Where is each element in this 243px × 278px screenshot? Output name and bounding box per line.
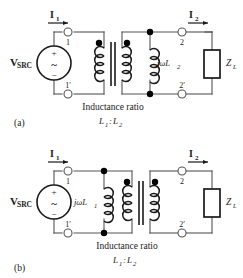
terminal-1p-node-a[interactable] xyxy=(64,90,72,98)
panel-tag-a: (a) xyxy=(14,118,25,129)
current-out-label-b: I xyxy=(189,148,193,159)
load-label-a: Z xyxy=(226,58,232,68)
inductor-label-sub-b: 1 xyxy=(94,202,97,209)
caption-ratio-l2-sub-a: 2 xyxy=(119,121,123,128)
terminal-1-label-b: 1 xyxy=(66,177,70,186)
figure-root: + ~ − V SRC 1 1′ 2 2′ xyxy=(0,0,243,278)
terminal-1-node-b[interactable] xyxy=(64,167,72,175)
current-in-label-sub-a: 1 xyxy=(56,15,60,23)
source-label-sub-b: SRC xyxy=(17,200,32,209)
terminal-1-label-a: 1 xyxy=(66,38,70,47)
panel-tag-b: (b) xyxy=(14,263,25,274)
polarity-dot-primary-b xyxy=(124,179,130,185)
terminal-2-node-a[interactable] xyxy=(178,28,186,36)
source-plus-sign-a: + xyxy=(51,48,56,58)
circuit-svg-b: + ~ − V SRC 1 1′ 2 2′ jωL xyxy=(0,139,243,278)
transformer-primary-coil-a xyxy=(95,47,104,82)
caption-ratio-l2-b: L xyxy=(126,255,132,265)
terminal-1-node-a[interactable] xyxy=(64,28,72,36)
current-in-label-sub-b: 1 xyxy=(56,154,60,162)
wires-a xyxy=(54,32,212,94)
current-out-label-a: I xyxy=(189,9,193,20)
source-label-sub-a: SRC xyxy=(17,61,32,70)
terminal-2-label-a: 2 xyxy=(180,38,184,47)
source-minus-sign-b: − xyxy=(51,209,56,219)
circuit-panel-a: + ~ − V SRC 1 1′ 2 2′ xyxy=(0,0,243,139)
terminal-1p-node-b[interactable] xyxy=(64,229,72,237)
transformer-secondary-coil-b xyxy=(150,186,159,221)
caption-line1-a: Inductance ratio xyxy=(82,102,144,112)
caption-line2-b: L 1 : L 2 xyxy=(112,255,137,267)
transformer-core-a xyxy=(111,42,115,86)
terminal-2p-node-b[interactable] xyxy=(178,229,186,237)
terminal-1p-label-b: 1′ xyxy=(65,220,71,229)
polarity-dot-secondary-b xyxy=(152,179,158,185)
caption-ratio-sep-a: : xyxy=(109,116,112,126)
transformer-primary-coil-b xyxy=(123,186,132,221)
load-label-sub-b: L xyxy=(232,202,237,209)
inductor-label-b: jωL xyxy=(73,197,87,207)
current-in-label-a: I xyxy=(50,9,54,20)
current-out-label-sub-a: 2 xyxy=(195,15,199,23)
inductor-label-sub-a: 2 xyxy=(177,63,181,70)
caption-line1-b: Inductance ratio xyxy=(96,241,158,251)
source-plus-sign-b: + xyxy=(51,187,56,197)
polarity-dot-primary-a xyxy=(96,40,102,46)
junction-dot-top-b xyxy=(101,168,107,174)
source-waveform-b: ~ xyxy=(51,197,57,209)
terminal-2-label-b: 2 xyxy=(180,177,184,186)
terminal-2p-label-b: 2′ xyxy=(179,220,185,229)
load-impedance-box-a xyxy=(204,50,220,78)
inductor-coil-b xyxy=(104,188,113,223)
load-label-sub-a: L xyxy=(232,63,237,70)
inductor-label-a: jωL xyxy=(156,58,170,68)
terminal-2p-node-a[interactable] xyxy=(178,90,186,98)
caption-ratio-l1-b: L xyxy=(112,255,118,265)
terminal-2p-label-a: 2′ xyxy=(179,81,185,90)
circuit-panel-b: + ~ − V SRC 1 1′ 2 2′ jωL xyxy=(0,139,243,278)
junction-dot-bottom-a xyxy=(147,91,153,97)
caption-line2-a: L 1 : L 2 xyxy=(98,116,123,128)
caption-ratio-l2-a: L xyxy=(112,116,118,126)
source-minus-sign-a: − xyxy=(51,70,56,80)
caption-ratio-l2-sub-b: 2 xyxy=(133,260,137,267)
caption-ratio-l1-sub-a: 1 xyxy=(105,121,108,128)
current-in-label-b: I xyxy=(50,148,54,159)
polarity-dot-secondary-a xyxy=(124,40,130,46)
junction-dot-bottom-b xyxy=(101,230,107,236)
caption-ratio-l1-sub-b: 1 xyxy=(119,260,122,267)
terminal-1p-label-a: 1′ xyxy=(65,81,71,90)
caption-ratio-l1-a: L xyxy=(98,116,104,126)
caption-ratio-sep-b: : xyxy=(123,255,126,265)
load-impedance-box-b xyxy=(204,189,220,217)
source-waveform-a: ~ xyxy=(51,58,57,70)
transformer-secondary-coil-a xyxy=(122,47,131,82)
terminal-2-node-b[interactable] xyxy=(178,167,186,175)
load-label-b: Z xyxy=(226,197,232,207)
circuit-svg-a: + ~ − V SRC 1 1′ 2 2′ xyxy=(0,0,243,139)
current-out-label-sub-b: 2 xyxy=(195,154,199,162)
junction-dot-top-a xyxy=(147,29,153,35)
transformer-core-b xyxy=(139,181,143,225)
